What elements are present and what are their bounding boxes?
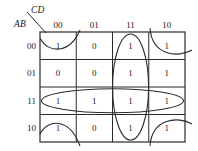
cell-r01-c10: 1 <box>149 69 185 78</box>
cell-r00-c11: 1 <box>113 42 149 51</box>
cell-r11-c11: 1 <box>113 97 149 106</box>
cell-r00-c00: 1 <box>40 42 76 51</box>
cell-r00-c10: 1 <box>149 42 185 51</box>
cell-r11-c01: 1 <box>76 97 112 106</box>
row-header-0: 00 <box>14 42 36 51</box>
cell-r10-c11: 1 <box>113 124 149 133</box>
cell-r10-c00: 1 <box>40 124 76 133</box>
row-header-2: 11 <box>14 97 36 106</box>
column-header-3: 10 <box>149 21 185 30</box>
cell-r00-c01: 0 <box>76 42 112 51</box>
column-variable-label: CD <box>31 6 45 16</box>
cell-r01-c00: 0 <box>40 69 76 78</box>
row-header-1: 01 <box>14 69 36 78</box>
column-header-0: 00 <box>40 21 76 30</box>
row-header-3: 10 <box>14 124 36 133</box>
karnaugh-map: CD AB 00 01 11 10 00 01 11 10 1 0 1 1 0 … <box>0 0 198 151</box>
cell-r10-c10: 1 <box>149 124 185 133</box>
cell-r10-c01: 0 <box>76 124 112 133</box>
column-header-2: 11 <box>113 21 149 30</box>
cell-r11-c00: 1 <box>40 97 76 106</box>
cell-r01-c01: 0 <box>76 69 112 78</box>
cell-r11-c10: 1 <box>149 97 185 106</box>
row-variable-label: AB <box>14 20 26 30</box>
column-header-1: 01 <box>76 21 112 30</box>
cell-r01-c11: 1 <box>113 69 149 78</box>
